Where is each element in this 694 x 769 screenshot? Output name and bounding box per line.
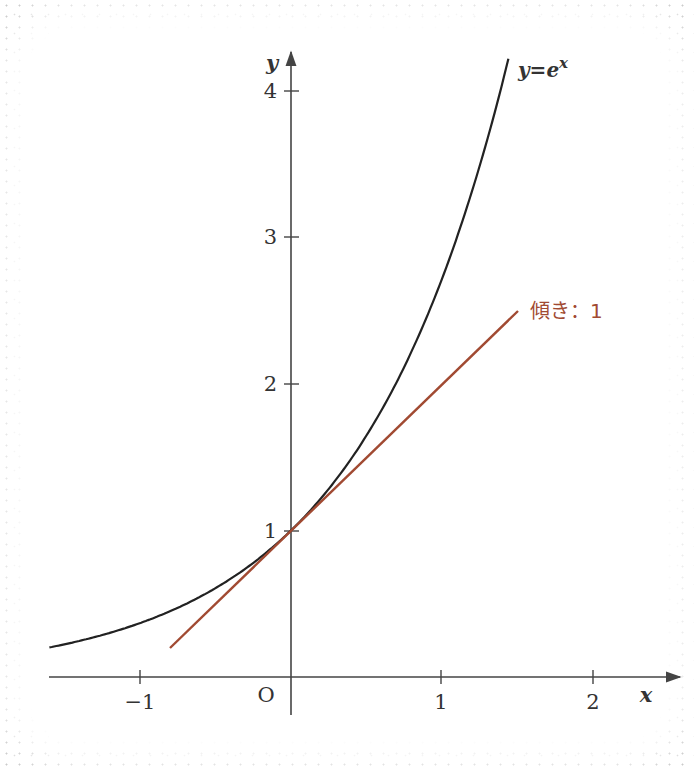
y-tick-label-4: 4 [264, 79, 277, 103]
tangent-line [170, 311, 518, 648]
chart: −1 1 2 O 1 2 3 4 y x y=ex 傾き：1 [0, 0, 694, 769]
y-tick-label-3: 3 [264, 225, 277, 249]
origin-label: O [257, 683, 274, 707]
x-axis-label: x [639, 682, 653, 707]
x-tick-label-2: 2 [586, 690, 599, 714]
y-tick-label-1: 1 [264, 519, 277, 543]
x-tick-label-1: 1 [434, 690, 447, 714]
curve-label-exponent: x [558, 54, 569, 72]
curve-label-base: y=e [517, 58, 559, 82]
y-axis-label: y [265, 50, 280, 75]
y-tick-label-2: 2 [264, 372, 277, 396]
x-tick-label-neg1: −1 [125, 690, 156, 714]
curve-label: y=ex [517, 54, 569, 82]
exp-curve [49, 59, 508, 648]
slope-label: 傾き：1 [530, 299, 603, 323]
